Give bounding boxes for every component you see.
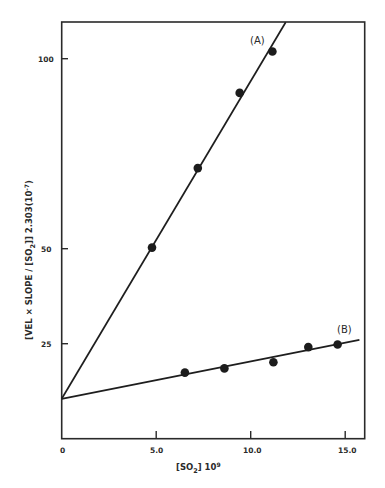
series-b-label: (B) <box>337 324 352 335</box>
y-axis-title: [VEL × SLOPE / [SO2]] 2.303(10-7) <box>23 180 37 340</box>
y-tick-label-50: 50 <box>41 245 51 254</box>
series-b-point <box>269 358 278 367</box>
series-b: (B) <box>62 324 360 399</box>
series-b-point <box>181 368 190 377</box>
x-tick-label-0: 0 <box>60 446 65 455</box>
x-axis: 0 5.0 10.0 15.0 <box>60 431 357 455</box>
series-a-fit-line <box>62 22 286 399</box>
chart: 100 50 25 0 5.0 10.0 15.0 [SO2] 109 [VEL… <box>0 0 385 488</box>
y-axis: 100 50 25 <box>38 55 68 349</box>
series-a-point <box>235 89 244 98</box>
y-tick-label-100: 100 <box>38 55 54 64</box>
series-b-point <box>304 343 313 352</box>
x-tick-label-5: 5.0 <box>150 446 163 455</box>
series-a: (A) <box>62 22 286 399</box>
series-b-point <box>333 340 342 349</box>
series-a-label: (A) <box>250 35 265 46</box>
series-b-fit-line <box>62 340 360 399</box>
x-tick-label-15: 15.0 <box>338 446 357 455</box>
y-tick-label-25: 25 <box>41 340 51 349</box>
series-b-point <box>220 364 229 373</box>
series-a-point <box>194 164 203 173</box>
x-tick-label-10: 10.0 <box>243 446 262 455</box>
plot-frame <box>62 22 365 439</box>
series-a-point <box>148 243 157 252</box>
x-axis-title: [SO2] 109 <box>176 461 221 475</box>
series-a-point <box>268 47 277 56</box>
